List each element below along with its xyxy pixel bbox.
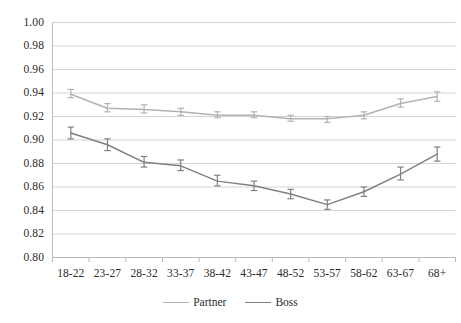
- x-tick-label: 18-22: [53, 268, 90, 280]
- x-tick-label: 48-52: [272, 268, 309, 280]
- series-line-boss: [71, 133, 437, 205]
- x-tick-label: 28-32: [126, 268, 163, 280]
- x-tick-label: 23-27: [89, 268, 126, 280]
- x-tick-label: 63-67: [382, 268, 419, 280]
- legend-item-boss: Boss: [245, 296, 297, 308]
- chart-figure: 0.800.820.840.860.880.900.920.940.960.98…: [0, 0, 461, 323]
- x-axis-ticks: [53, 258, 456, 263]
- x-tick-label: 58-62: [346, 268, 383, 280]
- y-tick-label: 0.96: [2, 64, 44, 76]
- x-tick-label: 53-57: [309, 268, 346, 280]
- legend-label: Boss: [275, 296, 297, 308]
- legend-label: Partner: [193, 296, 226, 308]
- x-tick-label: 43-47: [236, 268, 273, 280]
- y-tick-label: 0.92: [2, 111, 44, 123]
- x-tick-label: 33-37: [162, 268, 199, 280]
- y-tick-label: 0.82: [2, 228, 44, 240]
- error-bar: [434, 147, 440, 161]
- x-tick-label: 68+: [419, 268, 456, 280]
- y-tick-label: 0.88: [2, 158, 44, 170]
- legend-line-swatch: [245, 302, 271, 303]
- y-tick-label: 0.94: [2, 87, 44, 99]
- y-gridlines: [53, 23, 456, 258]
- y-tick-label: 0.80: [2, 252, 44, 264]
- y-tick-label: 0.84: [2, 205, 44, 217]
- y-tick-label: 0.90: [2, 134, 44, 146]
- legend-line-swatch: [163, 302, 189, 303]
- error-bar: [68, 89, 74, 97]
- legend-item-partner: Partner: [163, 296, 226, 308]
- chart-legend: PartnerBoss: [0, 296, 461, 308]
- y-tick-label: 1.00: [2, 17, 44, 29]
- x-tick-label: 38-42: [199, 268, 236, 280]
- series-partner: [68, 89, 441, 122]
- y-tick-label: 0.98: [2, 40, 44, 52]
- series-boss: [68, 127, 441, 209]
- y-tick-label: 0.86: [2, 181, 44, 193]
